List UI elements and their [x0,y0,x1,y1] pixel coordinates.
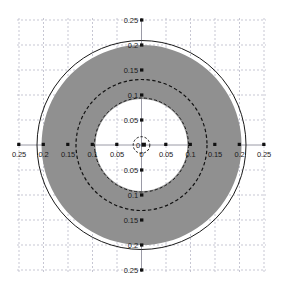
y-tick-label-6: 0.05 [114,166,138,175]
origin-marker [142,143,146,147]
y-tick-label-10: 0.25 [114,266,138,275]
y-tick-label-4: 0.05 [114,116,138,125]
x-tick-label-8: 0.15 [208,150,222,159]
x-tick-label-2: 0.15 [61,150,75,159]
x-tick-label-9: 0.2 [234,150,244,159]
x-tick-label-4: 0.05 [110,150,124,159]
plot-canvas [0,0,283,296]
y-tick-label-7: 0.1 [114,191,138,200]
y-tick-label-9: 0.2 [114,241,138,250]
x-tick-label-6: 0.05 [159,150,173,159]
x-tick-label-0: 0.25 [12,150,26,159]
y-tick-label-3: 0.1 [114,91,138,100]
x-tick-label-3: 0.1 [87,150,97,159]
y-tick-label-0: 0.25 [114,16,138,25]
x-tick-label-1: 0.2 [38,150,48,159]
origin-tick-label: 0 [118,141,140,150]
y-tick-label-1: 0.2 [114,41,138,50]
x-tick-label-5: 0 [139,150,143,159]
x-tick-label-10: 0.25 [257,150,271,159]
y-tick-label-8: 0.15 [114,216,138,225]
y-tick-label-2: 0.15 [114,66,138,75]
x-tick-label-7: 0.1 [185,150,195,159]
polar-annulus-figure: 0.25 0.2 0.15 0.1 0.05 0 0.05 0.1 0.15 0… [0,0,283,296]
